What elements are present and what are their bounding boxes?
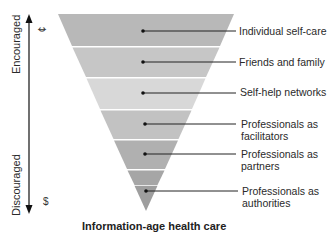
- encouraged-label: Encouraged: [10, 15, 22, 74]
- cent-symbol: ¢: [37, 27, 48, 33]
- label-self-help-networks: Self-help networks: [240, 86, 326, 98]
- label-individual-self-care: Individual self-care: [239, 25, 327, 37]
- label-professionals-facilitators: Professionals as facilitators: [241, 118, 318, 142]
- diagram-title: Information-age health care: [82, 220, 226, 232]
- label-friends-and-family: Friends and family: [239, 56, 325, 68]
- band-professionals-authorities-upper: [128, 171, 165, 186]
- encouraged-discouraged-arrow: [26, 14, 33, 214]
- label-professionals-partners: Professionals as partners: [241, 148, 318, 172]
- discouraged-label: Discouraged: [10, 154, 22, 216]
- band-self-help-networks: [87, 79, 206, 110]
- dollar-symbol: $: [43, 196, 49, 207]
- band-individual-self-care: [58, 14, 234, 46]
- label-professionals-authorities: Professionals as authorities: [242, 185, 319, 209]
